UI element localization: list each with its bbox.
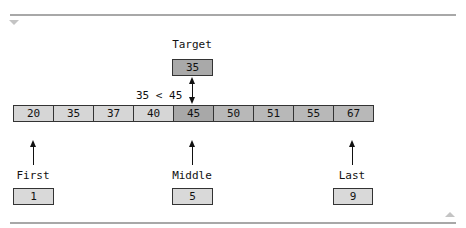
first-index-box: 1 bbox=[13, 188, 54, 205]
array-cell: 51 bbox=[254, 106, 294, 121]
array-cell: 55 bbox=[294, 106, 334, 121]
collapse-triangle-icon[interactable] bbox=[9, 20, 19, 25]
array-cell: 20 bbox=[14, 106, 54, 121]
comparison-text: 35 < 45 bbox=[136, 89, 188, 102]
last-index-box: 9 bbox=[333, 188, 373, 205]
target-box: 35 bbox=[172, 59, 213, 76]
middle-label: Middle bbox=[162, 169, 222, 182]
bottom-divider bbox=[10, 222, 456, 224]
middle-index-box: 5 bbox=[172, 188, 213, 205]
array-cell: 67 bbox=[334, 106, 373, 121]
array-cell: 40 bbox=[134, 106, 174, 121]
target-label: Target bbox=[162, 38, 222, 51]
first-label: First bbox=[8, 169, 58, 182]
sorted-array: 20 35 37 40 45 50 51 55 67 bbox=[13, 105, 374, 122]
array-cell: 35 bbox=[54, 106, 94, 121]
array-cell-middle: 45 bbox=[174, 106, 214, 121]
last-label: Last bbox=[327, 169, 377, 182]
expand-triangle-icon[interactable] bbox=[445, 212, 455, 217]
array-cell: 37 bbox=[94, 106, 134, 121]
array-cell: 50 bbox=[214, 106, 254, 121]
top-divider bbox=[10, 14, 456, 16]
